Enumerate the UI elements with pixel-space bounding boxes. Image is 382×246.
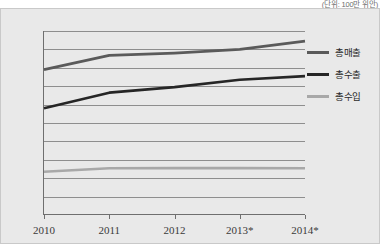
legend-swatch-icon xyxy=(307,51,329,54)
x-axis-tick-mark xyxy=(305,215,306,219)
x-axis-tick-mark xyxy=(109,215,110,219)
legend-item[interactable]: 총수출 xyxy=(307,67,361,81)
chart-legend: 총매출총수출총수입 xyxy=(307,45,361,103)
series-line xyxy=(44,41,305,70)
legend-swatch-icon xyxy=(307,73,329,76)
x-axis-tick-label: 2013* xyxy=(212,224,268,236)
x-axis-tick-label: 2012 xyxy=(147,224,203,236)
series-line xyxy=(44,168,305,172)
legend-item[interactable]: 총매출 xyxy=(307,45,361,59)
x-axis-tick-label: 2014* xyxy=(277,224,333,236)
x-axis-tick-mark xyxy=(44,215,45,219)
legend-swatch-icon xyxy=(307,95,329,98)
x-axis-tick-label: 2010 xyxy=(16,224,72,236)
x-axis-tick-mark xyxy=(240,215,241,219)
legend-label: 총수입 xyxy=(335,89,361,103)
legend-label: 총매출 xyxy=(335,45,361,59)
legend-label: 총수출 xyxy=(335,67,361,81)
chart-panel: 0200400600800100012001400160018002000 20… xyxy=(0,8,380,244)
x-axis-tick-label: 2011 xyxy=(81,224,137,236)
legend-item[interactable]: 총수입 xyxy=(307,89,361,103)
x-axis-tick-mark xyxy=(175,215,176,219)
series-line xyxy=(44,76,305,108)
plot-area: 0200400600800100012001400160018002000 20… xyxy=(44,31,305,215)
series-lines xyxy=(44,31,305,215)
